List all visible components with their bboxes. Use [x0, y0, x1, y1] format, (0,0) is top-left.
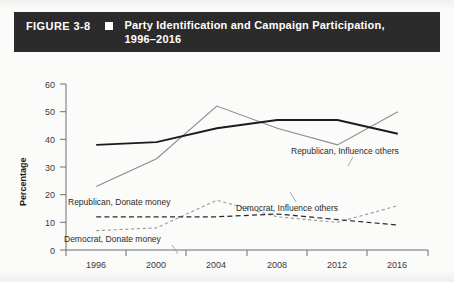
square-bullet-icon [105, 22, 113, 30]
x-tick-2000: 2000 [146, 260, 166, 268]
series-label-democrat-donate-money: Democrat, Donate money [64, 234, 162, 244]
leader-democrat-influence [290, 192, 296, 202]
y-tick-60: 60 [45, 80, 55, 90]
series-label-republican-influence-others: Republican, Influence others [291, 146, 399, 156]
x-tick-2008: 2008 [267, 260, 287, 268]
page-bottom-edge [0, 268, 454, 282]
y-tick-10: 10 [45, 218, 55, 228]
x-axis-ticks: 1996 2000 2004 2008 2012 2016 [66, 250, 428, 268]
series-label-democrat-influence-others: Democrat, Influence others [236, 203, 338, 213]
figure-title-line-1: Party Identification and Campaign Partic… [125, 18, 385, 32]
page-top-edge [0, 0, 454, 12]
figure-title: Party Identification and Campaign Partic… [125, 18, 385, 46]
x-tick-2012: 2012 [327, 260, 347, 268]
series-line-republican-donate-money [96, 214, 398, 225]
x-tick-2016: 2016 [387, 260, 407, 268]
series-line-republican-influence-others [96, 120, 398, 145]
y-tick-30: 30 [45, 163, 55, 173]
leader-republican-influence [348, 157, 353, 166]
figure-header-band: FIGURE 3-8 Party Identification and Camp… [14, 12, 440, 52]
y-tick-20: 20 [45, 190, 55, 200]
y-tick-40: 40 [45, 135, 55, 145]
chart-plot-area: Percentage 0 10 20 30 40 50 60 [0, 56, 454, 268]
x-tick-2004: 2004 [206, 260, 226, 268]
x-tick-1996: 1996 [86, 260, 106, 268]
figure-title-line-2: 1996–2016 [125, 32, 385, 46]
y-tick-50: 50 [45, 107, 55, 117]
figure-number: FIGURE 3-8 [26, 18, 91, 33]
y-axis-ticks: 0 10 20 30 40 50 60 [45, 80, 66, 256]
series-label-republican-donate-money: Republican, Donate money [68, 197, 171, 207]
y-axis-label: Percentage [18, 157, 28, 206]
line-chart: Percentage 0 10 20 30 40 50 60 [0, 56, 454, 268]
y-tick-0: 0 [50, 246, 55, 256]
